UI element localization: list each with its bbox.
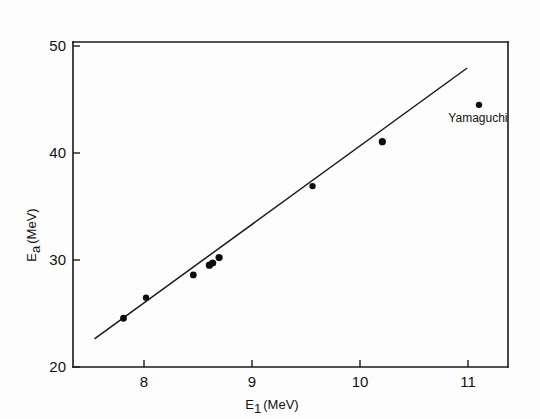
scatter-plot: 8 9 10 11 50 40 30 20 Ea(MeV) E1(M: [0, 0, 540, 419]
x-tick-label-9: 9: [248, 373, 256, 390]
data-point: [209, 259, 216, 266]
annotation-label: Yamaguchi: [448, 111, 507, 125]
y-tick-label-50: 50: [49, 37, 66, 54]
svg-text:E1(MeV): E1(MeV): [245, 397, 298, 416]
y-axis-title: Ea(MeV): [24, 208, 43, 261]
x-tick-label-8: 8: [140, 373, 148, 390]
x-axis-title: E1(MeV): [245, 397, 298, 416]
y-tick-label-30: 30: [49, 251, 66, 268]
data-point: [120, 315, 127, 322]
x-tick-label-11: 11: [460, 373, 476, 390]
y-tick-label-40: 40: [49, 144, 66, 161]
annotations-group: Yamaguchi: [448, 111, 507, 125]
data-point: [309, 183, 315, 189]
plot-frame: [73, 42, 508, 367]
data-point: [190, 272, 197, 279]
data-point: [379, 138, 386, 145]
data-point: [476, 102, 482, 108]
x-axis-title-unit: (MeV): [263, 397, 298, 412]
x-tick-label-10: 10: [352, 373, 369, 390]
data-point: [215, 254, 222, 261]
y-axis-title-unit: (MeV): [24, 208, 39, 243]
svg-text:Ea(MeV): Ea(MeV): [24, 208, 43, 261]
linear-fit-line: [94, 68, 467, 339]
y-tick-label-20: 20: [49, 358, 66, 375]
x-axis-ticks: [144, 360, 468, 367]
y-axis-title-base: E: [24, 253, 39, 262]
data-point: [143, 294, 149, 300]
y-axis-tick-labels: 50 40 30 20: [49, 37, 66, 375]
x-axis-title-subscript: 1: [254, 401, 261, 416]
x-axis-title-base: E: [245, 397, 254, 412]
y-axis-title-subscript: a: [28, 245, 43, 253]
data-points-group: [120, 102, 482, 322]
figure-container: 8 9 10 11 50 40 30 20 Ea(MeV) E1(M: [0, 0, 540, 419]
x-axis-tick-labels: 8 9 10 11: [140, 373, 476, 390]
y-axis-ticks: [73, 46, 80, 367]
